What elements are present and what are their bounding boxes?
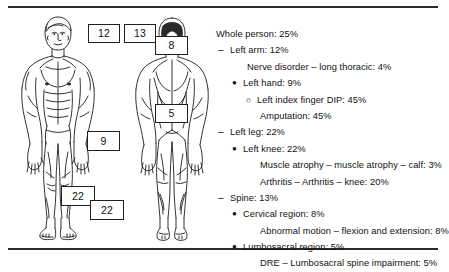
callout-22-knee-value: 22 <box>72 191 84 202</box>
list-item: ● Lumbosacral region: 5% <box>216 239 444 255</box>
impairment-label: Left index finger DIP: 45% <box>257 92 366 108</box>
list-item: Nerve disorder – long thoracic: 4% <box>216 59 444 75</box>
hollow-bullet-icon: ○ <box>246 92 251 108</box>
list-item: – Left leg: 22% <box>216 124 444 140</box>
callout-8[interactable]: 8 <box>155 36 188 55</box>
callout-5-value: 5 <box>168 108 174 119</box>
callout-9[interactable]: 9 <box>87 131 120 151</box>
filled-bullet-icon: ● <box>232 206 237 222</box>
impairment-label: Whole person: 25% <box>216 26 298 42</box>
callout-12-value: 12 <box>98 28 110 39</box>
impairment-label: Cervical region: 8% <box>243 206 325 222</box>
callout-22-leg[interactable]: 22 <box>90 200 124 220</box>
callout-13-value: 13 <box>134 28 146 39</box>
list-item: Arthritis – Arthritis – knee: 20% <box>216 174 444 190</box>
filled-bullet-icon: ● <box>232 75 237 91</box>
list-item: DRE – Lumbosacral spine impairment: 5% <box>216 255 444 271</box>
list-item: ● Left knee: 22% <box>216 141 444 157</box>
dash-marker-icon: – <box>218 42 224 58</box>
list-item: Amputation: 45% <box>216 108 444 124</box>
impairment-label: Amputation: 45% <box>260 108 332 124</box>
impairment-label: Nerve disorder – long thoracic: 4% <box>247 59 391 75</box>
list-item: ○ Left index finger DIP: 45% <box>216 92 444 108</box>
impairment-label: Lumbosacral region: 5% <box>243 239 344 255</box>
impairment-label: Muscle atrophy – muscle atrophy – calf: … <box>260 157 442 173</box>
list-item: Abnormal motion – flexion and extension:… <box>216 223 444 239</box>
callout-12[interactable]: 12 <box>88 24 120 43</box>
impairment-label: DRE – Lumbosacral spine impairment: 5% <box>260 255 437 271</box>
list-item: ● Left hand: 9% <box>216 75 444 91</box>
dash-marker-icon: – <box>218 190 224 206</box>
anterior-body-figure <box>22 17 95 240</box>
list-item: ● Cervical region: 8% <box>216 206 444 222</box>
impairment-label: Left arm: 12% <box>230 42 289 58</box>
callout-8-value: 8 <box>168 40 174 51</box>
impairment-label: Spine: 13% <box>230 190 278 206</box>
list-item: Whole person: 25% <box>216 26 444 42</box>
callout-5[interactable]: 5 <box>155 104 188 123</box>
dash-marker-icon: – <box>218 124 224 140</box>
callout-22-leg-value: 22 <box>101 205 113 216</box>
impairment-label: Left leg: 22% <box>230 124 285 140</box>
callout-9-value: 9 <box>100 136 106 147</box>
impairment-label: Left hand: 9% <box>243 75 301 91</box>
list-item: Muscle atrophy – muscle atrophy – calf: … <box>216 157 444 173</box>
filled-bullet-icon: ● <box>232 239 237 255</box>
impairment-label: Left knee: 22% <box>243 141 306 157</box>
filled-bullet-icon: ● <box>232 141 237 157</box>
impairment-label: Arthritis – Arthritis – knee: 20% <box>260 174 389 190</box>
list-item: – Left arm: 12% <box>216 42 444 58</box>
impairment-list: Whole person: 25% – Left arm: 12% Nerve … <box>216 26 444 272</box>
callout-13[interactable]: 13 <box>124 24 156 43</box>
impairment-label: Abnormal motion – flexion and extension:… <box>260 223 449 239</box>
list-item: – Spine: 13% <box>216 190 444 206</box>
